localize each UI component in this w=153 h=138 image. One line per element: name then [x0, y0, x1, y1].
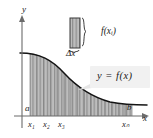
partition-label-x1: x₁ — [28, 120, 35, 129]
interval-left-endpoint-label: a — [25, 104, 30, 113]
x-axis-label: x — [143, 114, 147, 123]
inset-rectangle — [70, 18, 80, 48]
partition-label-xn: xₙ — [122, 120, 129, 129]
riemann-sum-figure: y x a b x₁ x₂ x₃ xₙ f(xi) Δx y = f(x) — [0, 0, 153, 138]
y-axis-label: y — [22, 5, 26, 14]
y-axis-arrow — [19, 15, 25, 22]
partition-label-x2: x₂ — [43, 120, 50, 129]
inset-height-label: f(xi) — [101, 27, 116, 37]
partition-label-x3: x₃ — [58, 120, 65, 129]
figure-canvas — [0, 0, 153, 138]
inset-height-label-main: f(x — [101, 26, 111, 36]
inset-height-brace — [82, 18, 86, 46]
inset-width-label: Δx — [66, 49, 75, 58]
interval-right-endpoint-label: b — [127, 103, 132, 112]
inset-height-label-tail: ) — [113, 26, 116, 36]
curve-equation-label: y = f(x) — [97, 71, 133, 82]
